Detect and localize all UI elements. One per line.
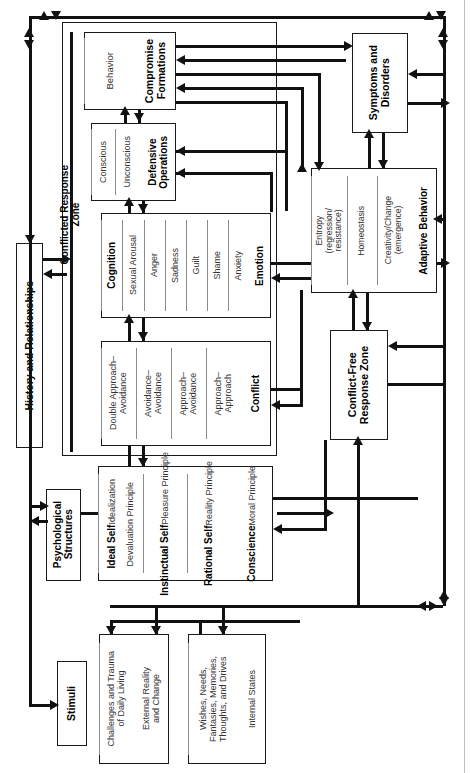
connector-to-stimuli — [29, 704, 52, 707]
symptoms-and-disorders-title: Symptoms and Disorders — [368, 45, 392, 120]
arrow-top-left-up — [39, 11, 49, 20]
arrow-to-external-1 — [106, 626, 116, 635]
connector-psy-right-2 — [277, 512, 327, 515]
psychological-structures-title: Psychological Structures — [52, 501, 74, 568]
connector-to-internal-1 — [199, 620, 202, 634]
internal-states-box: Internal States Wishes, Needs, Fantasies… — [188, 634, 266, 764]
arrow-bottom-bus-left — [417, 601, 426, 611]
arrow-hist-right-2 — [43, 269, 52, 279]
external-reality-item-1: Challenges and Trauma of Daily Living — [106, 651, 126, 747]
conflict-item-2: Avoidance– Avoidance — [143, 370, 163, 417]
connector-cfz-bottom-vert — [357, 440, 360, 605]
internal-states-item-0: Internal States — [247, 670, 257, 728]
arrow-left-bus-up — [24, 28, 34, 37]
connector-def-right-2-vert — [270, 172, 273, 212]
connector-bottom-bus-2 — [110, 620, 300, 623]
connector-zone-inner-vert — [70, 32, 73, 452]
psych-structure-0-reg: Moral Principle — [247, 466, 257, 526]
psych-structure-1-reg: Reality Principle — [204, 461, 214, 526]
connector-cf-lower-vert — [285, 101, 288, 211]
arrow-adaptive-cf-up — [297, 163, 307, 172]
connector-bottom-bus — [110, 605, 443, 608]
arrow-def-to-cf — [120, 106, 130, 115]
arrow-emo-right-2 — [271, 273, 280, 283]
connector-psy-right-3-vert — [324, 440, 327, 530]
adaptive-behavior-item-2: Entropy (regression/ resistance) — [315, 208, 344, 253]
arrow-psy-left-1 — [40, 501, 49, 511]
arrow-cfz-to-adaptive — [348, 289, 358, 298]
connector-stimuli-vert — [29, 620, 32, 706]
connector-top-bus — [29, 16, 446, 19]
connector-adaptive-cfz-up — [352, 293, 355, 330]
conflict-box: Conflict Approach– Approach Approach– Av… — [101, 341, 271, 446]
compromise-formations-box: Compromise Formations Behavior — [84, 32, 176, 110]
arrow-symptoms-to-adaptive — [378, 160, 388, 169]
connector-emo-right-2 — [275, 277, 311, 280]
psych-structure-2-reg: Pleasure Principle — [160, 452, 170, 525]
psychological-structures-content-box: ConscienceMoral Principle Rational SelfR… — [98, 466, 273, 581]
connector-psy-right-3 — [277, 528, 327, 531]
arrow-to-external-2 — [151, 626, 161, 635]
conflict-item-1: Approach– Avoidance — [178, 372, 198, 416]
arrow-emo-to-def — [124, 197, 134, 206]
page-margin-rule — [464, 0, 465, 773]
connector-cf-to-symptoms-1 — [176, 45, 346, 48]
arrow-top-right-down — [436, 11, 446, 20]
arrow-def-right-2 — [176, 168, 185, 178]
emotion-item-2: Guilt — [191, 256, 201, 275]
external-reality-item-0: External Reality and Change — [141, 667, 161, 730]
arrow-to-internal-2 — [218, 626, 228, 635]
connector-cf-adaptive-vert — [318, 73, 321, 168]
arrow-adaptive-to-symptoms — [364, 129, 374, 138]
psych-structure-1-bold: Rational Self — [203, 525, 214, 586]
arrow-hist-top-down — [25, 235, 35, 244]
connector-adaptive-cf-vert — [301, 87, 304, 168]
defensive-operations-title: Defensive Operations — [147, 136, 169, 189]
diagram-canvas: Conflicted Response Zone Compromise Form… — [0, 0, 473, 773]
arrow-right-bus-down — [438, 40, 448, 49]
adaptive-behavior-title: Adaptive Behavior — [418, 187, 429, 275]
arrow-symptoms-out-right — [441, 98, 450, 108]
psych-structure-2-bold: Instinctual Self — [159, 524, 170, 595]
psych-structure-0-bold: Conscience — [246, 525, 257, 581]
connector-def-right-2 — [176, 172, 272, 175]
compromise-formations-title: Compromise Formations — [144, 39, 168, 103]
connector-cfz-right-1 — [392, 345, 443, 348]
internal-states-item-1: Wishes, Needs, Fantasies, Memories, Thou… — [198, 656, 228, 742]
arrow-cfz-right-1 — [388, 341, 397, 351]
connector-psy-right-1 — [273, 497, 418, 500]
arrow-def-to-emo — [138, 204, 148, 213]
compromise-formations-item-0: Behavior — [105, 52, 116, 90]
arrow-emo-to-conf — [138, 332, 148, 341]
arrow-adaptive-right-1 — [433, 214, 442, 224]
adaptive-behavior-item-1: Homeostasis — [357, 206, 367, 256]
arrow-bottom-bus-down — [439, 597, 449, 606]
connector-conf-right-vert — [300, 290, 303, 404]
emotion-item-3: Sadness — [170, 248, 180, 283]
arrow-hist-right-1 — [62, 254, 71, 264]
connector-def-right-1 — [176, 150, 288, 153]
arrow-adaptive-to-cf — [176, 83, 185, 93]
arrow-adaptive-to-cfz — [362, 322, 372, 331]
connector-symptoms-out-right — [408, 102, 443, 105]
connector-left-outer-vertical — [29, 16, 32, 706]
arrow-symptoms-in-right — [408, 69, 417, 79]
arrow-top-right-up — [424, 11, 434, 20]
arrow-conf-right-2 — [271, 400, 280, 410]
symptoms-and-disorders-box: Symptoms and Disorders — [352, 33, 408, 133]
arrow-top-left-down — [51, 11, 61, 20]
arrow-cfz-bottom-up — [353, 436, 363, 445]
arrow-psy-right-3 — [273, 524, 282, 534]
emotion-item-1: Shame — [212, 251, 222, 280]
arrow-to-stimuli — [50, 700, 59, 710]
connector-adaptive-to-cf-1 — [180, 87, 304, 90]
emotion-title: Emotion — [254, 246, 265, 286]
conflict-item-3: Double Approach– Avoidance — [108, 356, 128, 430]
conflict-title: Conflict — [250, 375, 261, 412]
cognition-title: Cognition — [106, 242, 117, 289]
arrow-psy-left-2 — [30, 516, 39, 526]
arrow-bottom-bus-right — [429, 601, 438, 611]
connector-conf-psy-up — [128, 446, 131, 466]
defensive-operations-item-0: Unconscious — [122, 136, 132, 188]
arrow-conf-to-psy — [138, 458, 148, 467]
